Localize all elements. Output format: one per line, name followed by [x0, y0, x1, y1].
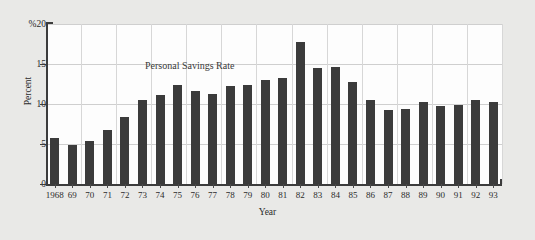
x-tick-mark — [493, 184, 494, 188]
bar — [384, 110, 393, 184]
x-tick-mark — [318, 184, 319, 188]
y-tick-mark — [40, 64, 47, 65]
bar — [278, 78, 287, 184]
x-axis-end-cap — [500, 179, 502, 186]
bar — [173, 85, 182, 184]
bar — [85, 141, 94, 184]
x-tick-mark — [230, 184, 231, 188]
y-tick-mark — [40, 104, 47, 105]
x-tick-label: 93 — [477, 190, 509, 200]
x-tick-mark — [213, 184, 214, 188]
x-tick-mark — [178, 184, 179, 188]
bar — [296, 42, 305, 184]
y-tick-mark — [40, 144, 47, 145]
x-tick-mark — [125, 184, 126, 188]
bar — [419, 102, 428, 184]
x-axis-line — [46, 184, 502, 186]
bar — [156, 95, 165, 184]
x-tick-mark — [388, 184, 389, 188]
x-tick-mark — [335, 184, 336, 188]
x-axis-title: Year — [0, 207, 535, 217]
bar — [243, 85, 252, 184]
x-tick-mark — [107, 184, 108, 188]
bar — [489, 102, 498, 184]
bar — [208, 94, 217, 184]
x-tick-mark — [283, 184, 284, 188]
x-tick-mark — [423, 184, 424, 188]
x-tick-mark — [265, 184, 266, 188]
x-tick-mark — [142, 184, 143, 188]
x-tick-mark — [476, 184, 477, 188]
bars-layer — [46, 24, 502, 184]
x-tick-mark — [353, 184, 354, 188]
bar — [471, 100, 480, 184]
bar — [366, 100, 375, 184]
x-tick-mark — [55, 184, 56, 188]
x-tick-mark — [160, 184, 161, 188]
bar — [138, 100, 147, 184]
x-tick-mark — [370, 184, 371, 188]
bar — [348, 82, 357, 184]
gridline-vertical — [502, 24, 503, 184]
bar — [68, 145, 77, 184]
bar — [454, 105, 463, 184]
x-tick-mark — [300, 184, 301, 188]
y-axis-top-cap — [46, 22, 53, 24]
bar — [401, 109, 410, 184]
x-tick-mark — [458, 184, 459, 188]
y-axis-title: Percent — [23, 51, 33, 131]
x-tick-mark — [406, 184, 407, 188]
chart-figure: 051015%20 196869707172737475767778798081… — [0, 0, 535, 240]
bar — [50, 138, 59, 184]
x-tick-mark — [72, 184, 73, 188]
bar — [331, 67, 340, 184]
series-annotation: Personal Savings Rate — [145, 60, 234, 71]
x-tick-mark — [248, 184, 249, 188]
x-axis-end-cap — [46, 179, 48, 186]
bar — [191, 91, 200, 184]
bar — [103, 130, 112, 184]
x-tick-mark — [441, 184, 442, 188]
bar — [313, 68, 322, 184]
x-tick-mark — [195, 184, 196, 188]
x-tick-mark — [90, 184, 91, 188]
bar — [436, 106, 445, 184]
bar — [261, 80, 270, 184]
y-tick-label: %20 — [2, 19, 46, 29]
bar — [226, 86, 235, 184]
bar — [120, 117, 129, 184]
